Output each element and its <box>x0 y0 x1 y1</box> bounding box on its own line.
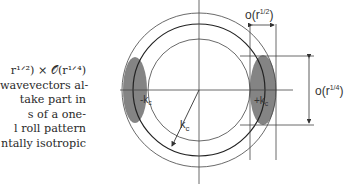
radius-label: kc <box>180 118 190 133</box>
minus-kc-label: -kc <box>140 94 152 106</box>
height-label: o(r1/4) <box>315 84 343 98</box>
width-label: o(r1/2) <box>245 8 273 22</box>
radius-arrow <box>172 90 199 146</box>
wavevector-diagram: o(r1/2) o(r1/4) kc -kc +kc <box>0 0 349 184</box>
